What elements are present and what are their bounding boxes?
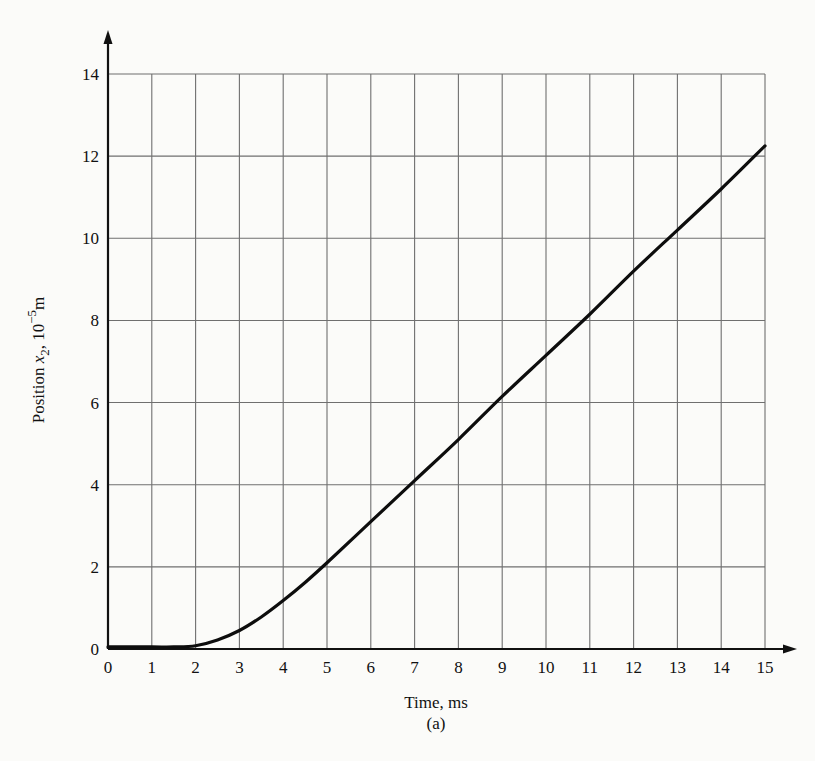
x-tick-label: 6 (367, 658, 376, 677)
x-tick-label: 10 (538, 658, 555, 677)
y-tick-label: 4 (91, 476, 100, 495)
y-tick-label: 10 (82, 229, 99, 248)
x-tick-label: 8 (454, 658, 463, 677)
x-axis-arrow-icon (783, 645, 797, 654)
x-tick-label: 4 (279, 658, 288, 677)
x-tick-label: 12 (625, 658, 642, 677)
y-tick-label: 6 (91, 394, 100, 413)
y-tick-label: 0 (91, 640, 100, 659)
y-tick-label: 14 (82, 65, 100, 84)
grid-lines (108, 74, 765, 649)
x-tick-label: 5 (323, 658, 332, 677)
y-tick-label: 8 (91, 311, 100, 330)
x-tick-label: 1 (148, 658, 157, 677)
x-tick-label: 2 (191, 658, 200, 677)
y-tick-label: 2 (91, 558, 100, 577)
x-tick-label: 15 (757, 658, 774, 677)
x-tick-label: 7 (410, 658, 419, 677)
y-axis-arrow-icon (104, 30, 113, 44)
x-axis-label: Time, ms (404, 693, 468, 712)
x-tick-label: 11 (582, 658, 598, 677)
figure-subtitle: (a) (427, 714, 446, 733)
x-tick-labels: 0123456789101112131415 (104, 658, 774, 677)
y-tick-label: 12 (82, 147, 99, 166)
position-time-chart: 0123456789101112131415 02468101214 Time,… (0, 0, 815, 761)
x-tick-label: 9 (498, 658, 507, 677)
axes (104, 30, 798, 654)
x-tick-label: 14 (713, 658, 731, 677)
series-line-x2 (108, 146, 765, 647)
y-axis-label: Position x2, 10−5m (24, 297, 52, 424)
x-tick-label: 13 (669, 658, 686, 677)
x-tick-label: 3 (235, 658, 244, 677)
y-tick-labels: 02468101214 (82, 65, 100, 659)
x-tick-label: 0 (104, 658, 113, 677)
